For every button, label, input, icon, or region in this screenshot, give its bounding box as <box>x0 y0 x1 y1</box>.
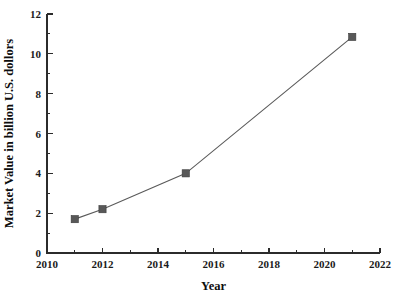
y-tick-label: 10 <box>30 48 42 60</box>
y-axis-title: Market Value in billion U.S. dollors <box>2 39 16 228</box>
y-tick-label: 6 <box>36 128 42 140</box>
line-chart: 2010201220142016201820202022 024681012 Y… <box>0 0 398 298</box>
x-tick-label: 2020 <box>314 258 337 270</box>
data-point-marker <box>71 216 78 223</box>
y-tick-label: 12 <box>30 8 42 20</box>
chart-canvas: 2010201220142016201820202022 024681012 Y… <box>0 0 398 298</box>
x-tick-label: 2012 <box>92 258 115 270</box>
x-tick-marks <box>47 248 380 254</box>
series-group <box>71 33 356 222</box>
data-point-marker <box>349 33 356 40</box>
y-tick-label: 4 <box>36 167 42 179</box>
x-tick-label: 2018 <box>258 258 281 270</box>
y-tick-marks <box>47 14 53 253</box>
x-tick-label: 2010 <box>36 258 59 270</box>
x-tick-label: 2022 <box>369 258 392 270</box>
data-point-marker <box>99 206 106 213</box>
data-point-marker <box>182 170 189 177</box>
y-tick-label: 2 <box>36 207 42 219</box>
x-tick-label: 2014 <box>147 258 170 270</box>
x-tick-label: 2016 <box>203 258 226 270</box>
axis-spines <box>47 14 380 253</box>
y-tick-labels: 024681012 <box>30 8 42 259</box>
y-tick-label: 8 <box>36 88 42 100</box>
axes-group <box>47 14 380 253</box>
y-tick-label: 0 <box>36 247 42 259</box>
series-line <box>75 37 353 219</box>
x-tick-labels: 2010201220142016201820202022 <box>36 258 392 270</box>
x-axis-title: Year <box>201 279 226 293</box>
